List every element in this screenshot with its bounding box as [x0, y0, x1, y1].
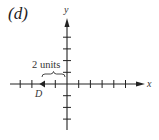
coordinate-plane: 2 units D x y — [0, 0, 159, 140]
y-axis-label: y — [63, 4, 69, 15]
y-axis-arrow-icon — [65, 18, 70, 27]
point-d-label: D — [34, 88, 43, 99]
brace-icon — [42, 72, 65, 78]
units-annotation: 2 units — [32, 59, 60, 70]
point-d-marker-icon — [40, 81, 46, 88]
x-axis-arrow-icon — [136, 82, 145, 87]
x-axis-label: x — [146, 78, 152, 89]
